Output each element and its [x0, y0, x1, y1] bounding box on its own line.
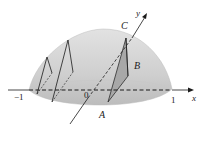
y-axis-back — [132, 17, 145, 38]
x-axis-label: x — [192, 94, 196, 103]
point-c-label: C — [121, 21, 128, 31]
y-axis-label: y — [136, 9, 140, 18]
point-a-label: A — [99, 110, 105, 120]
solid-diagram — [0, 0, 204, 147]
tick-one-label: 1 — [171, 96, 176, 105]
y-axis-arrow-icon — [142, 13, 147, 19]
point-b-label: B — [134, 61, 140, 71]
tick-neg-one-label: −1 — [14, 93, 24, 102]
x-axis-arrow-icon — [188, 88, 194, 93]
diagram-canvas: x y C B A 0 −1 1 — [0, 0, 204, 147]
origin-label: 0 — [84, 91, 89, 100]
